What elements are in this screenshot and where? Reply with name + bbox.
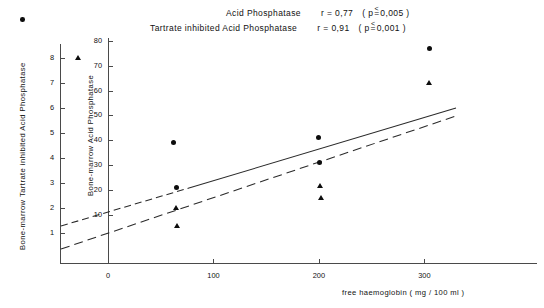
- fit-line-acid-extrapolated: [61, 188, 189, 226]
- data-point-triangle: [317, 183, 323, 188]
- fit-line-tartrate: [61, 116, 456, 249]
- data-point-circle: [174, 185, 179, 190]
- regression-lines: [0, 0, 544, 308]
- data-point-triangle: [318, 195, 324, 200]
- fit-line-acid-solid: [189, 108, 456, 188]
- data-point-triangle: [426, 80, 432, 85]
- data-point-triangle: [174, 223, 180, 228]
- acid-phosphatase-marker-legend: [20, 17, 25, 22]
- data-point-triangle: [173, 205, 179, 210]
- chart-canvas: Acid Phosphataser = 0,77( p<=0,005 ) Tar…: [0, 0, 544, 308]
- tartrate-inhibited-marker-legend: [75, 55, 81, 60]
